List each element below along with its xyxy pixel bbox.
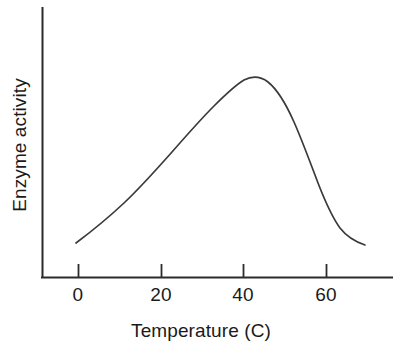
x-tick-label-40: 40: [232, 284, 254, 306]
x-tick-label-60: 60: [315, 284, 337, 306]
enzyme-activity-curve: [76, 77, 365, 245]
x-tick-label-20: 20: [150, 284, 172, 306]
x-axis-label: Temperature (C): [0, 320, 402, 342]
y-axis-label: Enzyme activity: [9, 78, 31, 211]
y-axis-label-container: Enzyme activity: [0, 0, 40, 290]
x-tick-label-0: 0: [73, 284, 84, 306]
chart-figure: 0 20 40 60 Temperature (C) Enzyme activi…: [0, 0, 402, 361]
plot-area: [0, 0, 402, 361]
